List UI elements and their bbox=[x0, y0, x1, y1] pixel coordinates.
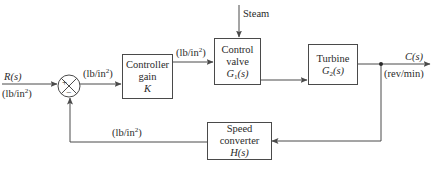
pickoff-point bbox=[379, 62, 383, 66]
valve-tf: G1(s) bbox=[226, 68, 248, 80]
control-valve-block: Control valve G1(s) bbox=[214, 38, 261, 85]
turbine-label: Turbine bbox=[317, 53, 350, 65]
input-symbol: R(s) bbox=[4, 71, 22, 83]
speed-converter-block: Speed converter H(s) bbox=[207, 122, 272, 160]
feedback-unit: (lb/in2) bbox=[112, 127, 142, 139]
minus-sign: − bbox=[66, 88, 71, 97]
controller-label: Controller bbox=[126, 59, 169, 71]
turbine-block: Turbine G2(s) bbox=[308, 44, 358, 85]
steam-label: Steam bbox=[243, 8, 269, 20]
error-signal-unit: (lb/in2) bbox=[83, 68, 113, 80]
output-symbol: C(s) bbox=[405, 51, 423, 63]
valve-label-2: valve bbox=[226, 56, 249, 68]
controller-tf: K bbox=[144, 83, 151, 95]
valve-label: Control bbox=[221, 44, 253, 56]
sensor-label: Speed converter bbox=[208, 123, 271, 147]
plus-sign: + bbox=[62, 78, 67, 87]
sensor-tf: H(s) bbox=[230, 147, 249, 159]
controller-gain-block: Controller gain K bbox=[122, 54, 173, 99]
output-unit: (rev/min) bbox=[384, 68, 424, 80]
turbine-tf: G2(s) bbox=[322, 65, 344, 77]
input-unit: (lb/in2) bbox=[2, 88, 32, 100]
controller-output-unit: (lb/in2) bbox=[176, 47, 206, 59]
controller-label-2: gain bbox=[138, 71, 156, 83]
